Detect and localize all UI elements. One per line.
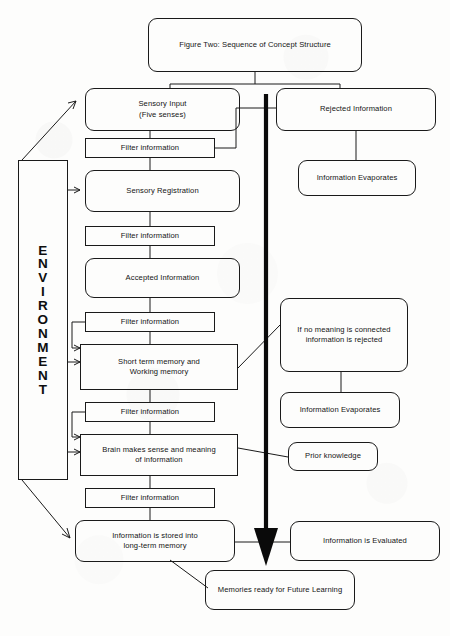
thick-arrow-head	[254, 528, 278, 566]
flowchart-diagram: Figure Two: Sequence of Concept Structur…	[0, 0, 450, 636]
thick-flow-arrow	[0, 0, 450, 636]
